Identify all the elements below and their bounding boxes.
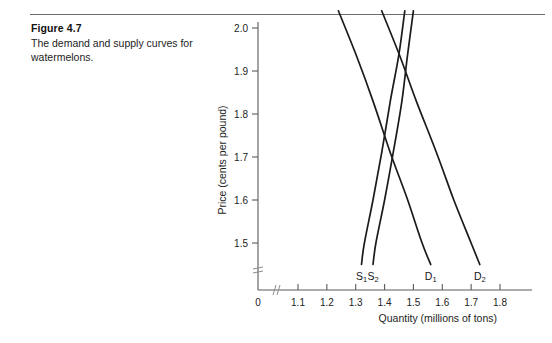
x-tick-label: 1.1 <box>291 297 305 308</box>
x-tick-label: 1.4 <box>378 297 392 308</box>
y-axis: 1.51.61.71.81.92.0 Price (cents per poun… <box>216 22 263 290</box>
y-tick-label: 1.5 <box>234 238 248 249</box>
x-origin-label: 0 <box>255 297 261 308</box>
y-tick-label: 1.7 <box>234 152 248 163</box>
y-axis-title: Price (cents per pound) <box>216 105 228 214</box>
x-tick-label: 1.2 <box>320 297 334 308</box>
curve-S2 <box>373 11 413 265</box>
y-tick-label: 1.6 <box>234 195 248 206</box>
x-tick-label: 1.7 <box>464 297 478 308</box>
x-axis-title: Quantity (millions of tons) <box>379 312 497 324</box>
y-tick-label: 1.9 <box>234 66 248 77</box>
curve-label-group: D1D2S1S2 <box>356 270 486 285</box>
curve-group <box>338 11 479 265</box>
x-tick-label: 1.6 <box>435 297 449 308</box>
curve-label-D1: D1 <box>425 270 437 285</box>
x-tick-label: 1.5 <box>406 297 420 308</box>
curve-S1 <box>362 11 405 265</box>
curve-label-S1: S1 <box>356 270 367 285</box>
x-tick-label: 1.8 <box>493 297 507 308</box>
curve-label-S2: S2 <box>367 270 378 285</box>
y-tick-label: 1.8 <box>234 109 248 120</box>
x-tick-label: 1.3 <box>349 297 363 308</box>
supply-demand-chart: 1.51.61.71.81.92.0 Price (cents per poun… <box>0 0 552 343</box>
x-axis: 1.11.21.31.41.51.61.71.8 0 Quantity (mil… <box>255 284 532 324</box>
curve-label-D2: D2 <box>474 270 486 285</box>
y-tick-label: 2.0 <box>234 23 248 34</box>
